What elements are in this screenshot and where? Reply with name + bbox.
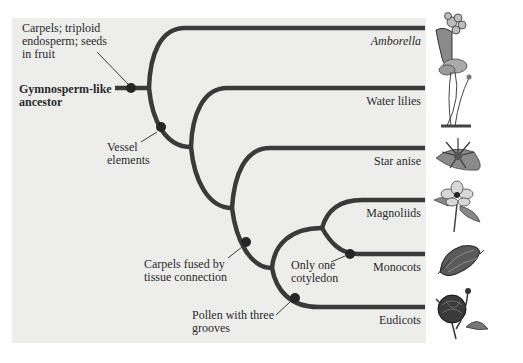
taxon-eudicots: Eudicots <box>301 314 421 327</box>
trait-label-vessel: Vessel elements <box>107 141 150 167</box>
taxon-magnoliids: Magnoliids <box>301 207 421 220</box>
water-lily-icon <box>437 58 477 130</box>
trait-text: in fruit <box>22 48 107 61</box>
magnolia-flower-icon <box>432 180 484 234</box>
trait-node-one-cotyledon <box>345 249 355 259</box>
branch-b-down <box>191 147 232 208</box>
trait-label-carpels-fused: Carpels fused by tissue connection <box>144 258 227 284</box>
rose-flower-icon <box>432 285 494 341</box>
taxon-amborella: Amborella <box>301 35 421 48</box>
trait-text: tissue connection <box>144 271 227 284</box>
trait-node-vessel <box>156 122 166 132</box>
trait-node-pollen <box>290 293 300 303</box>
trait-node-carpels <box>126 83 136 93</box>
trait-node-carpels-fused <box>241 237 251 247</box>
taxon-star-anise: Star anise <box>301 155 421 168</box>
root-label-line2: ancestor <box>19 96 112 109</box>
trait-label-carpels: Carpels; triploid endosperm; seeds in fr… <box>22 22 107 61</box>
trait-text: elements <box>107 154 150 167</box>
taxon-monocots: Monocots <box>301 261 421 274</box>
trait-text: grooves <box>192 322 274 335</box>
star-anise-icon <box>434 136 484 174</box>
corn-ear-icon <box>436 240 484 278</box>
root-label: Gymnosperm-like ancestor <box>19 83 112 109</box>
taxon-water-lilies: Water lilies <box>301 95 421 108</box>
branch-a-down <box>149 88 191 147</box>
branch-monocots <box>322 228 425 254</box>
branch-c-down <box>232 208 272 268</box>
trait-label-pollen: Pollen with three grooves <box>192 309 274 335</box>
